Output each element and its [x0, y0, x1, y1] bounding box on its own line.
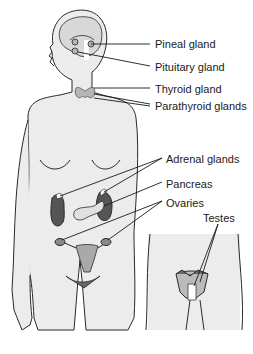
pineal-gland-shape: [72, 39, 78, 45]
endocrine-diagram: Pineal gland Pituitary gland Thyroid gla…: [0, 0, 253, 354]
label-pituitary-gland: Pituitary gland: [155, 61, 225, 73]
label-testes: Testes: [203, 212, 235, 224]
label-pineal-gland: Pineal gland: [155, 38, 216, 50]
label-ovaries: Ovaries: [166, 197, 204, 209]
label-pancreas: Pancreas: [166, 178, 212, 190]
label-adrenal-glands: Adrenal glands: [166, 153, 239, 165]
anatomy-illustration: [0, 0, 253, 354]
label-thyroid-gland: Thyroid gland: [155, 83, 222, 95]
kidney-left: [51, 195, 64, 226]
male-lower-body: [146, 234, 243, 330]
label-parathyroid-glands: Parathyroid glands: [155, 100, 247, 112]
pituitary-gland-shape: [72, 48, 78, 54]
ovary-right: [101, 239, 111, 246]
